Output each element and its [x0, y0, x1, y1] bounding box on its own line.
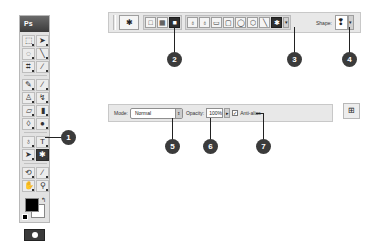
opacity-input[interactable]: 100% — [206, 108, 223, 118]
pen-tool-icon[interactable]: ♁ — [22, 136, 35, 148]
mode-value: Normal — [135, 110, 151, 116]
crop-tool-icon[interactable]: ⌗ — [22, 61, 35, 73]
callout-7: 7 — [256, 139, 271, 154]
color-swatches: ↰ — [22, 196, 47, 226]
opacity-slider-arrow[interactable]: ▸ — [224, 108, 230, 118]
divider — [24, 162, 47, 164]
eyedropper-tool-icon[interactable]: ∕ — [36, 61, 49, 73]
callout-6: 6 — [203, 139, 218, 154]
callout-line-7a — [256, 113, 263, 114]
polygon-icon[interactable]: ⬡ — [247, 17, 258, 28]
move-tool-icon[interactable]: ➤ — [36, 35, 49, 47]
callout-3: 3 — [287, 52, 302, 67]
line-icon[interactable]: ╲ — [259, 17, 270, 28]
shape-layers-button[interactable]: □ — [145, 17, 156, 28]
callout-line-7 — [263, 113, 264, 141]
tools-grid: ⬚ ➤ ◌ ╲ ⌗ ∕ ✎ ∕ ♙ ↯ ▱ ▮ ◊ ● ♁ T ➤ ✱ ⟲ ∕ … — [20, 32, 49, 192]
divider — [24, 131, 47, 133]
path-selection-tool-icon[interactable]: ➤ — [22, 149, 35, 161]
custom-shape-icon[interactable]: ✱ — [271, 17, 282, 28]
lasso-tool-icon[interactable]: ◌ — [22, 48, 35, 60]
freeform-pen-icon[interactable]: ♁ — [199, 17, 210, 28]
tools-panel: Ps ⬚ ➤ ◌ ╲ ⌗ ∕ ✎ ∕ ♙ ↯ ▱ ▮ ◊ ● ♁ T ➤ ✱ ⟲… — [19, 15, 50, 223]
mode-select-arrows-icon: ⇕ — [175, 109, 182, 118]
callout-line-2 — [174, 27, 175, 53]
callout-line-3 — [294, 27, 295, 53]
ellipse-icon[interactable]: ◯ — [235, 17, 246, 28]
anti-alias-checkbox[interactable]: ✓ — [232, 110, 238, 116]
palette-toggle-button[interactable]: ⊞ — [343, 103, 360, 119]
gradient-tool-icon[interactable]: ▮ — [36, 105, 49, 117]
callout-line-4 — [349, 27, 350, 53]
hand-tool-icon[interactable]: ✋ — [22, 180, 35, 192]
rounded-rectangle-icon[interactable]: ▢ — [223, 17, 234, 28]
magic-wand-tool-icon[interactable]: ╲ — [36, 48, 49, 60]
mode-select[interactable]: Normal ⇕ — [130, 108, 183, 119]
history-brush-tool-icon[interactable]: ↯ — [36, 92, 49, 104]
pen-icon[interactable]: ♁ — [187, 17, 198, 28]
tool-preset-picker[interactable]: ✱ — [119, 15, 139, 30]
zoom-tool-icon[interactable]: ⚲ — [36, 180, 49, 192]
callout-5: 5 — [165, 139, 180, 154]
shape-options-bar: ✱ □ ▦ ■ ♁ ♁ ▭ ▢ ◯ ⬡ ╲ ✱ ▾ Shape: ❢ ▾ — [108, 12, 361, 33]
panel-header: Ps — [20, 16, 49, 32]
rectangle-icon[interactable]: ▭ — [211, 17, 222, 28]
callout-line-5 — [172, 118, 173, 141]
3d-rotate-tool-icon[interactable]: ⟲ — [22, 167, 35, 179]
shape-label: Shape: — [316, 20, 332, 26]
callout-2: 2 — [167, 52, 182, 67]
quick-mask-button[interactable] — [24, 229, 45, 241]
dodge-tool-icon[interactable]: ● — [36, 118, 49, 130]
custom-shape-tool-icon[interactable]: ✱ — [36, 149, 49, 161]
drawing-mode-group: □ ▦ ■ — [143, 15, 182, 30]
blur-tool-icon[interactable]: ◊ — [22, 118, 35, 130]
opacity-label: Opacity: — [186, 110, 204, 116]
3d-camera-tool-icon[interactable]: ∕ — [36, 167, 49, 179]
callout-line-6 — [210, 118, 211, 141]
clone-stamp-tool-icon[interactable]: ♙ — [22, 92, 35, 104]
fill-options-bar: Mode: Normal ⇕ Opacity: 100% ▸ ✓ Anti-al… — [108, 104, 333, 122]
eraser-tool-icon[interactable]: ▱ — [22, 105, 35, 117]
custom-shape-icon: ✱ — [126, 18, 133, 27]
brush-tool-icon[interactable]: ∕ — [36, 79, 49, 91]
paths-button[interactable]: ▦ — [157, 17, 168, 28]
healing-brush-tool-icon[interactable]: ✎ — [22, 79, 35, 91]
foreground-color[interactable] — [25, 198, 39, 212]
quick-mask-icon — [32, 232, 38, 238]
callout-1: 1 — [61, 130, 76, 145]
shape-tools-group: ♁ ♁ ▭ ▢ ◯ ⬡ ╲ ✱ ▾ — [185, 15, 291, 30]
geometry-options-arrow[interactable]: ▾ — [283, 17, 289, 28]
swap-colors-icon[interactable]: ↰ — [41, 196, 46, 203]
mode-label: Mode: — [114, 110, 128, 116]
callout-line-1 — [45, 137, 62, 138]
callout-4: 4 — [342, 52, 357, 67]
default-colors-icon[interactable] — [22, 214, 28, 220]
marquee-tool-icon[interactable]: ⬚ — [22, 35, 35, 47]
shape-picker[interactable]: ❢ — [335, 15, 348, 30]
divider — [24, 74, 47, 76]
drag-grip[interactable] — [113, 15, 116, 30]
